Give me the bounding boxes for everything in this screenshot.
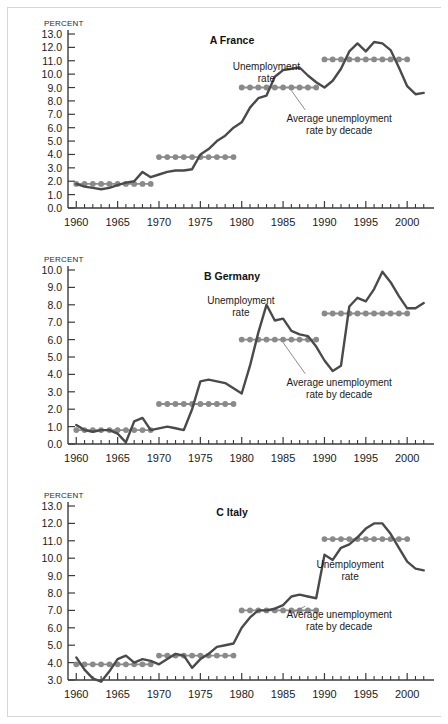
annotation-average-by-decade: Average unemploymentrate by decade <box>286 113 392 136</box>
average-series-marker <box>371 57 377 63</box>
annotation-line: rate <box>258 73 276 84</box>
average-series-marker <box>280 85 286 91</box>
average-series-marker <box>272 337 278 343</box>
chart-svg-A: PERCENTA France0.01.02.03.04.05.06.07.08… <box>8 8 442 244</box>
average-series-marker <box>173 154 179 160</box>
average-series-marker <box>396 311 402 317</box>
y-tick-label: 13.0 <box>42 500 63 512</box>
chart-svg-B: PERCENTB Germany0.01.02.03.04.05.06.07.0… <box>8 244 442 480</box>
average-series-marker <box>363 536 369 542</box>
y-tick-label: 5.0 <box>47 135 62 147</box>
annotation-line: Average unemployment <box>286 377 392 388</box>
x-tick-label: 1975 <box>188 688 212 700</box>
y-tick-label: 7.0 <box>47 604 62 616</box>
y-tick-label: 5.0 <box>47 639 62 651</box>
average-series-marker <box>239 85 245 91</box>
y-tick-label: 7.0 <box>47 316 62 328</box>
x-tick-label: 1965 <box>105 452 129 464</box>
panel-title-C: C Italy <box>216 506 248 518</box>
y-tick-label: 5.0 <box>47 351 62 363</box>
average-series-marker <box>214 653 220 659</box>
average-series-marker <box>297 337 303 343</box>
y-tick-label: 9.0 <box>47 82 62 94</box>
x-tick-label: 1980 <box>229 216 253 228</box>
average-series-marker <box>98 181 104 187</box>
x-tick-label: 2000 <box>395 216 419 228</box>
average-series-marker <box>313 337 319 343</box>
panel-title-A: A France <box>210 34 255 46</box>
average-series-marker <box>181 401 187 407</box>
annotation-line: rate by decade <box>306 125 373 136</box>
y-tick-label: 11.0 <box>42 535 62 547</box>
annotation-line: Unemployment <box>207 295 274 306</box>
y-tick-label: 8.0 <box>47 299 62 311</box>
x-tick-label: 1980 <box>229 688 253 700</box>
y-tick-label: 7.0 <box>47 108 62 120</box>
average-series-marker <box>247 337 253 343</box>
chart-panel-germany: PERCENTB Germany0.01.02.03.04.05.06.07.0… <box>8 244 442 480</box>
y-tick-label: 4.0 <box>47 368 62 380</box>
annotation-line: Average unemployment <box>286 609 392 620</box>
average-series-marker <box>280 337 286 343</box>
average-series-marker <box>404 536 410 542</box>
average-series-marker <box>355 311 361 317</box>
average-series-marker <box>90 181 96 187</box>
annotation-average-by-decade: Average unemploymentrate by decade <box>286 609 392 632</box>
y-tick-label: 2.0 <box>47 403 62 415</box>
annotation-leader-line <box>283 343 305 374</box>
y-tick-label: 0.0 <box>47 202 62 214</box>
annotation-line: Average unemployment <box>286 113 392 124</box>
average-series-marker <box>247 608 253 614</box>
y-tick-label: 12.0 <box>42 41 63 53</box>
average-series-marker <box>156 653 162 659</box>
average-series-marker <box>322 311 328 317</box>
average-series-marker <box>164 401 170 407</box>
average-series-marker <box>206 401 212 407</box>
y-tick-label: 4.0 <box>47 657 62 669</box>
average-series-marker <box>355 57 361 63</box>
average-series-marker <box>371 311 377 317</box>
y-tick-label: 13.0 <box>42 28 63 40</box>
average-series-marker <box>239 608 245 614</box>
y-tick-label: 0.0 <box>47 438 62 450</box>
y-tick-label: 10.0 <box>42 264 63 276</box>
x-tick-label: 1965 <box>105 216 129 228</box>
average-series-marker <box>313 85 319 91</box>
average-series-marker <box>123 427 129 433</box>
average-series-marker <box>247 85 253 91</box>
x-tick-label: 2000 <box>395 688 419 700</box>
y-tick-label: 8.0 <box>47 587 62 599</box>
annotation-line: rate <box>341 571 359 582</box>
y-tick-label: 3.0 <box>47 386 62 398</box>
x-tick-label: 1995 <box>354 688 378 700</box>
average-series-marker <box>404 57 410 63</box>
chart-panel-italy: PERCENTC Italy3.04.05.06.07.08.09.010.01… <box>8 480 442 716</box>
average-series-marker <box>98 661 104 667</box>
x-tick-label: 1965 <box>105 688 129 700</box>
annotation-line: Unemployment <box>316 559 383 570</box>
y-tick-label: 9.0 <box>47 570 62 582</box>
average-series-marker <box>148 181 154 187</box>
average-series-marker <box>140 181 146 187</box>
average-series-marker <box>363 57 369 63</box>
chart-svg-C: PERCENTC Italy3.04.05.06.07.08.09.010.01… <box>8 480 442 716</box>
average-series-marker <box>396 536 402 542</box>
chart-panel-france: PERCENTA France0.01.02.03.04.05.06.07.08… <box>8 8 442 244</box>
y-tick-label: 6.0 <box>47 334 62 346</box>
average-series-marker <box>380 536 386 542</box>
average-series-marker <box>264 337 270 343</box>
x-tick-label: 1960 <box>64 688 88 700</box>
annotation-unemployment-rate: Unemploymentrate <box>316 559 383 582</box>
average-series-marker <box>330 57 336 63</box>
average-series-marker <box>388 311 394 317</box>
average-series-marker <box>289 85 295 91</box>
series-average-unemployment-by-decade <box>76 314 407 431</box>
y-tick-label: 1.0 <box>47 189 62 201</box>
average-series-marker <box>140 427 146 433</box>
average-series-marker <box>156 401 162 407</box>
annotation-line: rate by decade <box>306 389 373 400</box>
average-series-marker <box>289 337 295 343</box>
x-tick-label: 2000 <box>395 452 419 464</box>
x-tick-label: 1990 <box>312 688 336 700</box>
x-tick-label: 1975 <box>188 452 212 464</box>
